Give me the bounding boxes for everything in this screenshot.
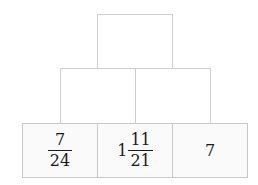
denominator: 24 xyxy=(48,150,72,169)
pyramid-middle-right-cell[interactable] xyxy=(135,68,211,124)
fraction: 11 21 xyxy=(128,132,152,169)
pyramid-bottom-middle-cell: 1 11 21 xyxy=(97,123,173,178)
cell-value: 7 xyxy=(173,124,247,177)
cell-value: 1 11 21 xyxy=(98,124,172,177)
pyramid-bottom-left-cell: 7 24 xyxy=(22,123,98,178)
mixed-whole: 1 xyxy=(117,141,127,160)
pyramid-bottom-right-cell: 7 xyxy=(172,123,248,178)
fraction: 7 24 xyxy=(48,132,72,169)
pyramid-middle-left-cell[interactable] xyxy=(60,68,136,124)
pyramid-top-cell[interactable] xyxy=(97,14,173,69)
denominator: 21 xyxy=(128,150,152,169)
integer-value: 7 xyxy=(205,141,215,160)
numerator: 11 xyxy=(128,132,152,150)
cell-value: 7 24 xyxy=(23,124,97,177)
numerator: 7 xyxy=(53,132,67,150)
